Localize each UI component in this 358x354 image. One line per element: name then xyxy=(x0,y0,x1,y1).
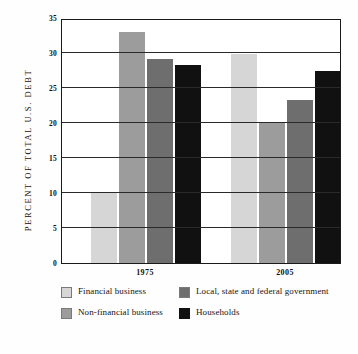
y-tick-label-5: 5 xyxy=(31,224,57,233)
chart-legend: Financial business Local, state and fede… xyxy=(61,286,351,328)
plot-area xyxy=(61,19,341,264)
legend-swatch-households xyxy=(179,308,190,319)
bar-2005-local-state-and-federal-government xyxy=(286,100,314,263)
legend-item-non-financial-business: Non-financial business xyxy=(61,307,179,319)
legend-swatch-government xyxy=(179,287,190,298)
y-tick-label-30: 30 xyxy=(31,49,57,58)
bar-2005-households xyxy=(314,71,341,263)
x-tick-label-2005: 2005 xyxy=(265,268,305,277)
legend-label-government: Local, state and federal government xyxy=(196,286,329,298)
y-tick-label-15: 15 xyxy=(31,154,57,163)
y-tick-label-20: 20 xyxy=(31,119,57,128)
y-axis-tick-labels: 05101520253035 xyxy=(27,19,57,264)
legend-label-non-financial-business: Non-financial business xyxy=(78,307,163,319)
bar-1975-non-financial-business xyxy=(118,32,146,263)
legend-swatch-non-financial-business xyxy=(61,308,72,319)
legend-row-2: Non-financial business Households xyxy=(61,307,351,319)
legend-label-financial-business: Financial business xyxy=(78,286,146,298)
bar-series-container xyxy=(62,20,340,263)
bar-2005-non-financial-business xyxy=(258,122,286,263)
y-tick-label-10: 10 xyxy=(31,189,57,198)
bar-1975-local-state-and-federal-government xyxy=(146,59,174,263)
bar-chart-figure: PERCENT OF TOTAL U.S. DEBT 0510152025303… xyxy=(0,0,358,354)
y-tick-label-25: 25 xyxy=(31,84,57,93)
bar-1975-financial-business xyxy=(90,193,118,263)
legend-item-government: Local, state and federal government xyxy=(179,286,329,298)
legend-swatch-financial-business xyxy=(61,287,72,298)
y-tick-label-0: 0 xyxy=(31,259,57,268)
x-tick-label-1975: 1975 xyxy=(125,268,165,277)
legend-item-financial-business: Financial business xyxy=(61,286,179,298)
legend-row-1: Financial business Local, state and fede… xyxy=(61,286,351,298)
bar-1975-households xyxy=(174,65,202,263)
legend-label-households: Households xyxy=(196,307,240,319)
x-axis-tick-labels: 19752005 xyxy=(61,268,341,282)
y-tick-label-35: 35 xyxy=(31,14,57,23)
legend-item-households: Households xyxy=(179,307,240,319)
bar-2005-financial-business xyxy=(230,54,258,263)
